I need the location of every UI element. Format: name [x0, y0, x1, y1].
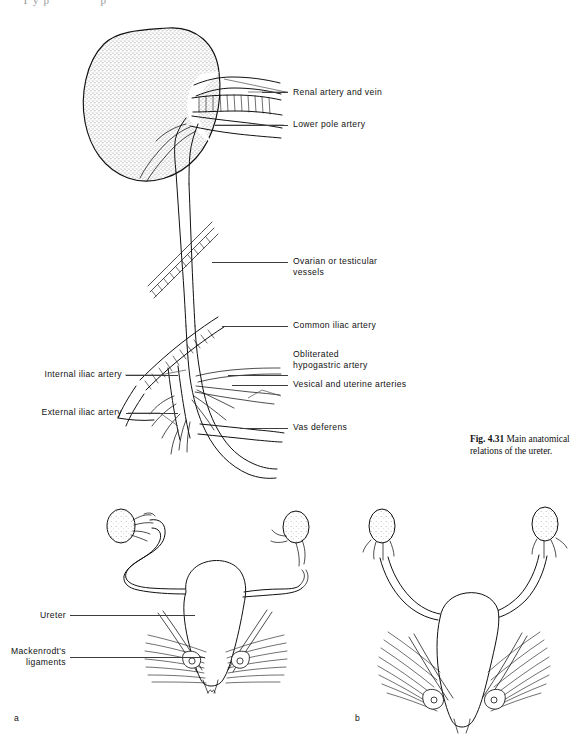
leader-common-iliac — [222, 326, 288, 327]
leader-external-iliac — [126, 413, 178, 414]
iliac-artery-branches — [118, 366, 190, 454]
label-external-iliac-artery: External iliac artery — [0, 407, 122, 418]
panel-a-drawing — [107, 509, 309, 693]
label-internal-iliac-artery: Internal iliac artery — [0, 369, 122, 380]
leader-ureter — [70, 615, 195, 616]
vas-deferens-shape — [198, 424, 284, 442]
label-ureter: Ureter — [0, 610, 66, 621]
leader-vesical-uterine — [232, 385, 288, 386]
uterus-diagrams-svg — [0, 500, 581, 737]
label-obliterated-hypogastric-artery: Obliterated hypogastric artery — [293, 349, 368, 370]
vesical-uterine-arteries-shape — [192, 386, 280, 430]
label-vas-deferens: Vas deferens — [293, 422, 347, 433]
label-lower-pole-artery: Lower pole artery — [293, 119, 365, 130]
label-common-iliac-artery: Common iliac artery — [293, 320, 376, 331]
ureter-diagram-svg — [0, 0, 581, 500]
kidney-shape — [83, 28, 220, 181]
panel-b-drawing — [363, 507, 567, 733]
gonadal-vessels — [148, 222, 218, 298]
leader-internal-iliac — [126, 375, 178, 376]
leader-ovarian-vessels — [212, 262, 288, 263]
leader-renal-artery-vein — [262, 92, 288, 93]
panel-letter-a: a — [14, 713, 19, 723]
label-renal-artery-and-vein: Renal artery and vein — [293, 87, 382, 98]
leader-mackenrodts-ligaments — [70, 657, 205, 658]
label-vesical-and-uterine-arteries: Vesical and uterine arteries — [293, 379, 406, 390]
figure-caption: Fig. 4.31 Main anatomical relations of t… — [470, 434, 574, 457]
leader-obliterated-hypogastric — [228, 375, 288, 376]
leader-lower-pole-artery — [215, 125, 288, 126]
figure-page: Typ p — [0, 0, 581, 737]
ureter-tube — [175, 118, 277, 478]
leader-vas-deferens — [240, 428, 288, 429]
label-mackenrodts-ligaments: Mackenrodt's ligaments — [0, 646, 66, 667]
label-ovarian-or-testicular-vessels: Ovarian or testicular vessels — [293, 256, 377, 277]
panel-letter-b: b — [355, 713, 360, 723]
figure-number: Fig. 4.31 — [470, 434, 504, 444]
